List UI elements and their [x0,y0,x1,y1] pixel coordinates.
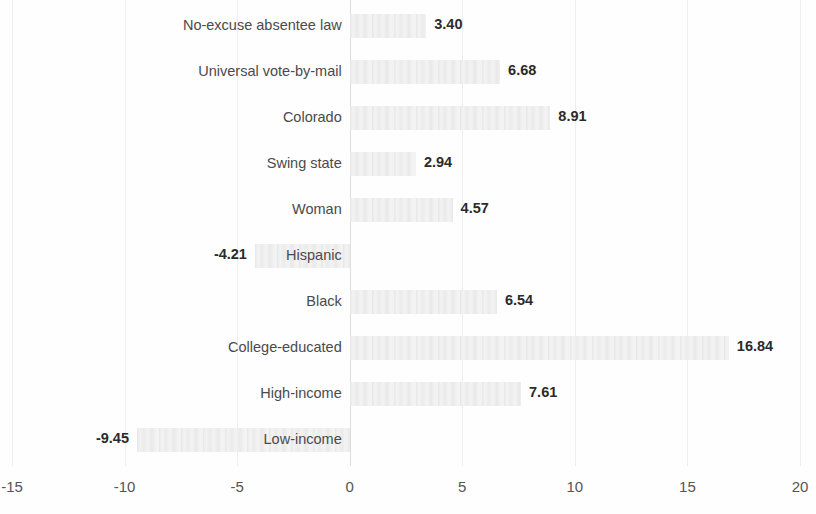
plot-area: No-excuse absentee law3.40Universal vote… [0,0,816,466]
category-label: College-educated [228,338,342,356]
bar-row: No-excuse absentee law3.40 [0,3,816,49]
bar[interactable] [350,152,416,176]
x-tick-label: 15 [679,478,696,496]
bar-row: College-educated16.84 [0,325,816,371]
bar-row: Colorado8.91 [0,95,816,141]
bar-row: Black6.54 [0,279,816,325]
data-label: 7.61 [529,383,557,401]
bar-row: Universal vote-by-mail6.68 [0,49,816,95]
bar-chart: No-excuse absentee law3.40Universal vote… [0,0,816,514]
bar[interactable] [350,198,453,222]
bar-row: High-income7.61 [0,371,816,417]
x-tick-label: -5 [230,478,243,496]
bar[interactable] [350,14,427,38]
x-tick-label: -15 [1,478,23,496]
category-label: Black [306,292,341,310]
category-label: No-excuse absentee law [183,16,342,34]
bar[interactable] [350,382,521,406]
bar-row: Low-income-9.45 [0,417,816,463]
category-label: Universal vote-by-mail [198,62,341,80]
category-label: High-income [260,384,341,402]
category-label: Colorado [283,108,342,126]
data-label: 6.54 [505,291,533,309]
x-tick-label: 10 [567,478,584,496]
bar[interactable] [350,290,497,314]
data-label: -4.21 [214,245,247,263]
data-label: 8.91 [558,107,586,125]
bar-row: Woman4.57 [0,187,816,233]
data-label: -9.45 [96,429,129,447]
bar[interactable] [350,60,500,84]
x-tick-label: 0 [346,478,354,496]
bar[interactable] [350,106,551,130]
bar-row: Hispanic-4.21 [0,233,816,279]
category-label: Swing state [267,154,342,172]
bar[interactable] [350,336,729,360]
x-axis: -15-10-505101520 [0,466,816,514]
category-label: Woman [292,200,342,218]
data-label: 6.68 [508,61,536,79]
x-tick-label: 20 [792,478,809,496]
category-label: Low-income [230,430,342,448]
data-label: 2.94 [424,153,452,171]
x-tick-label: 5 [458,478,466,496]
bar-row: Swing state2.94 [0,141,816,187]
data-label: 16.84 [737,337,773,355]
data-label: 4.57 [461,199,489,217]
x-tick-label: -10 [114,478,136,496]
data-label: 3.40 [434,15,462,33]
